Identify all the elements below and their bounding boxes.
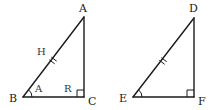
angle-arc-e-icon	[139, 90, 143, 97]
side-de-hypotenuse	[133, 18, 194, 97]
angle-label-b: A	[34, 83, 43, 94]
vertex-label-e: E	[119, 92, 127, 105]
hypotenuse-tick-de-icon	[159, 58, 166, 65]
vertex-label-c: C	[88, 95, 96, 108]
vertex-label-d: D	[189, 2, 198, 15]
vertex-label-b: B	[9, 92, 17, 105]
side-ab-hypotenuse	[23, 17, 84, 97]
angle-arc-b-icon	[29, 90, 33, 97]
right-angle-f-icon	[187, 90, 194, 97]
right-angle-c-icon	[77, 90, 84, 97]
triangle-abc: A B C H A R	[9, 2, 96, 108]
angle-label-c: R	[64, 83, 72, 94]
side-label-hypotenuse: H	[37, 46, 46, 57]
vertex-label-a: A	[78, 2, 88, 15]
triangle-def: D E F	[119, 2, 206, 108]
vertex-label-f: F	[198, 95, 206, 108]
congruence-diagram: A B C H A R D E F	[0, 0, 208, 110]
hypotenuse-tick-ab-icon	[49, 57, 56, 64]
